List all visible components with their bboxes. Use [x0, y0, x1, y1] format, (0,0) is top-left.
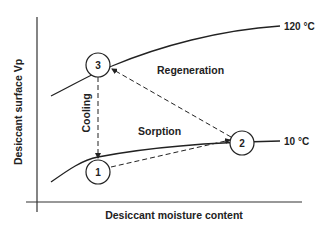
- isotherm-120c-label: 120 °C: [284, 21, 315, 32]
- isotherm-120c-curve: [51, 26, 280, 96]
- state-1: 1: [86, 160, 110, 184]
- state-3: 3: [86, 53, 110, 77]
- svg-text:3: 3: [95, 60, 101, 71]
- svg-text:1: 1: [95, 167, 101, 178]
- y-axis-label: Desiccant surface Vp: [12, 59, 24, 165]
- x-axis-label: Desiccant moisture content: [105, 209, 243, 221]
- state-2: 2: [230, 131, 254, 155]
- svg-text:2: 2: [239, 138, 245, 149]
- cooling-label: Cooling: [80, 93, 92, 132]
- isotherm-10c-label: 10 °C: [284, 136, 309, 147]
- sorption-label: Sorption: [138, 125, 181, 137]
- desiccant-cycle-diagram: Desiccant surface Vp Desiccant moisture …: [0, 0, 334, 226]
- regeneration-label: Regeneration: [157, 64, 224, 76]
